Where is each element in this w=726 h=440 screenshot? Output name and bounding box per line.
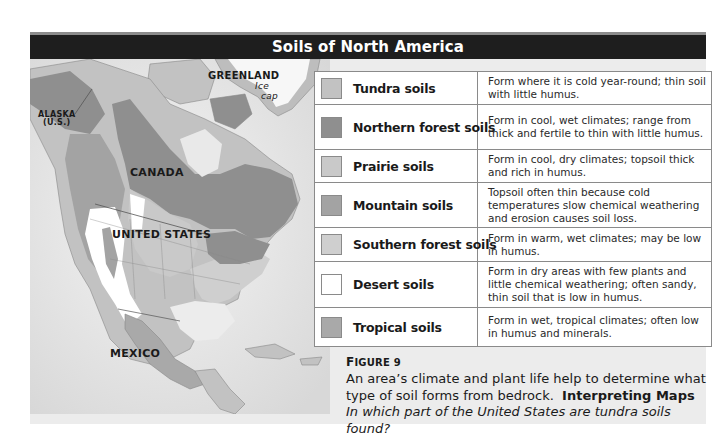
label-alaska: ALASKA (U.S.)	[38, 111, 75, 127]
soil-description: Form where it is cold year-round; thin s…	[478, 72, 711, 104]
tropical-swatch	[321, 317, 342, 338]
legend-row-desert: Desert soils Form in dry areas with few …	[315, 262, 711, 308]
title-bar: Soils of North America	[30, 32, 706, 59]
label-ice-cap: Ice cap	[255, 81, 278, 101]
soil-description: Form in wet, tropical climates; often lo…	[478, 308, 711, 346]
soil-name: Southern forest soils	[353, 237, 497, 252]
northern-forest-swatch	[321, 117, 342, 138]
prairie-swatch	[321, 156, 342, 177]
figure-number: FIGURE 9	[346, 355, 706, 369]
soil-name: Tundra soils	[353, 81, 436, 96]
soil-name: Desert soils	[353, 277, 434, 292]
soil-name: Tropical soils	[353, 320, 442, 335]
soil-map: ALASKA (U.S.) GREENLAND Ice cap CANADA U…	[30, 59, 330, 414]
soil-description: Form in warm, wet climates; may be low i…	[478, 228, 711, 261]
soil-description: Topsoil often thin because cold temperat…	[478, 183, 711, 227]
soil-description: Form in cool, dry climates; topsoil thic…	[478, 150, 711, 182]
soil-description: Form in cool, wet climates; range from t…	[478, 105, 711, 149]
caption-text: An area’s climate and plant life help to…	[346, 371, 706, 437]
soil-legend-table: Tundra soils Form where it is cold year-…	[314, 71, 712, 347]
desert-swatch	[321, 274, 342, 295]
figure-caption: FIGURE 9 An area’s climate and plant lif…	[346, 355, 706, 437]
legend-row-tundra: Tundra soils Form where it is cold year-…	[315, 72, 711, 105]
label-greenland: GREENLAND	[208, 70, 279, 81]
legend-row-southern-forest: Southern forest soils Form in warm, wet …	[315, 228, 711, 262]
tundra-swatch	[321, 78, 342, 99]
label-canada: CANADA	[130, 166, 184, 179]
southern-forest-swatch	[321, 234, 342, 255]
soil-name: Prairie soils	[353, 159, 434, 174]
legend-row-prairie: Prairie soils Form in cool, dry climates…	[315, 150, 711, 183]
mountain-swatch	[321, 195, 342, 216]
soil-description: Form in dry areas with few plants and li…	[478, 262, 711, 307]
legend-row-northern-forest: Northern forest soils Form in cool, wet …	[315, 105, 711, 150]
caption-question: In which part of the United States are t…	[346, 404, 671, 436]
skill-label: Interpreting Maps	[562, 388, 695, 403]
soil-name: Northern forest soils	[353, 120, 495, 135]
label-mexico: MEXICO	[110, 347, 160, 360]
legend-row-tropical: Tropical soils Form in wet, tropical cli…	[315, 308, 711, 346]
soil-name: Mountain soils	[353, 198, 453, 213]
legend-row-mountain: Mountain soils Topsoil often thin becaus…	[315, 183, 711, 228]
figure-title: Soils of North America	[272, 38, 464, 56]
label-united-states: UNITED STATES	[112, 228, 211, 241]
